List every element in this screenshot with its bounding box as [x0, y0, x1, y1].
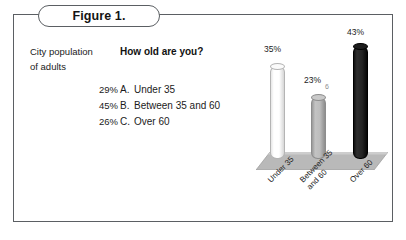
bar-between-35-and-60-cap: [311, 94, 326, 101]
caption-block: City population of adults: [30, 44, 118, 74]
option-row-a: A. Under 35: [120, 82, 220, 98]
bar-between-35-and-60-body: [311, 97, 326, 159]
bar-under-35-cap: [270, 63, 285, 70]
bar-value-under-35: 35%: [264, 45, 281, 54]
option-text-c: Over 60: [134, 114, 170, 130]
bar-under-35: [270, 66, 285, 159]
bar-over-60-body: [353, 46, 368, 159]
caption-line-1: City population: [30, 44, 118, 59]
question-options: A. Under 35 B. Between 35 and 60 C. Over…: [120, 82, 220, 130]
option-row-c: C. Over 60: [120, 114, 220, 130]
bar-under-35-body: [270, 66, 285, 159]
bar-value-over-60: 43%: [347, 28, 364, 37]
option-letter-b: B.: [120, 98, 134, 114]
caption-line-2: of adults: [30, 59, 118, 74]
population-percentage-b: 45%: [30, 98, 118, 114]
option-row-b: B. Between 35 and 60: [120, 98, 220, 114]
population-percentage-c: 26%: [30, 114, 118, 130]
figure-label-text: Figure 1.: [73, 10, 126, 23]
age-distribution-bar-chart: 35% 23% 43% 6 Under 35 Between 35 and 60…: [248, 28, 394, 213]
population-percentage-a: 29%: [30, 82, 118, 98]
bar-over-60-cap: [353, 43, 368, 50]
option-text-a: Under 35: [134, 82, 175, 98]
population-percentage-list: 29% 45% 26%: [30, 82, 118, 130]
figure-label-tab: Figure 1.: [38, 5, 160, 27]
option-text-b: Between 35 and 60: [134, 98, 220, 114]
stray-mark: 6: [325, 83, 329, 90]
bar-value-between-35-and-60: 23%: [304, 76, 321, 85]
option-letter-a: A.: [120, 82, 134, 98]
option-letter-c: C.: [120, 114, 134, 130]
question-prompt: How old are you?: [120, 44, 203, 59]
bar-over-60: [353, 46, 368, 159]
bar-between-35-and-60: [311, 97, 326, 159]
